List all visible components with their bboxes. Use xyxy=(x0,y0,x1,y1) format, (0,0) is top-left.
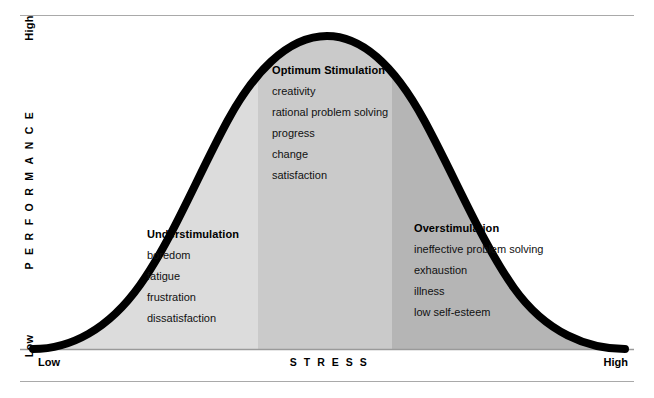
annotation-understimulation: Understimulation boredom fatigue frustra… xyxy=(147,228,239,324)
annotation-item: creativity xyxy=(272,85,388,97)
annotation-item: illness xyxy=(414,285,543,297)
annotation-heading: Understimulation xyxy=(147,228,239,240)
annotation-item: fatigue xyxy=(147,270,239,282)
zone-understimulation-fill xyxy=(0,0,258,398)
zone-overstimulation-fill xyxy=(392,0,654,398)
annotation-optimum-stimulation: Optimum Stimulation creativity rational … xyxy=(272,64,388,181)
annotation-item: dissatisfaction xyxy=(147,312,239,324)
plot-area xyxy=(0,0,654,398)
annotation-item: satisfaction xyxy=(272,169,388,181)
annotation-item: change xyxy=(272,148,388,160)
annotation-item: ineffective problem solving xyxy=(414,243,543,255)
annotation-item: progress xyxy=(272,127,388,139)
annotation-heading: Overstimulation xyxy=(414,222,543,234)
x-axis-low-label: Low xyxy=(38,356,60,368)
annotation-item: low self-esteem xyxy=(414,306,543,318)
annotation-item: exhaustion xyxy=(414,264,543,276)
annotation-overstimulation: Overstimulation ineffective problem solv… xyxy=(414,222,543,318)
annotation-heading: Optimum Stimulation xyxy=(272,64,388,76)
x-axis: Low STRESS High xyxy=(20,353,634,371)
x-axis-title: STRESS xyxy=(290,356,374,368)
stress-performance-chart: High PERFORMANCE Low Low STRESS High Opt… xyxy=(0,0,654,398)
annotation-item: rational problem solving xyxy=(272,106,388,118)
zone-fills xyxy=(0,0,654,398)
x-axis-high-label: High xyxy=(604,356,628,368)
annotation-item: frustration xyxy=(147,291,239,303)
annotation-item: boredom xyxy=(147,249,239,261)
